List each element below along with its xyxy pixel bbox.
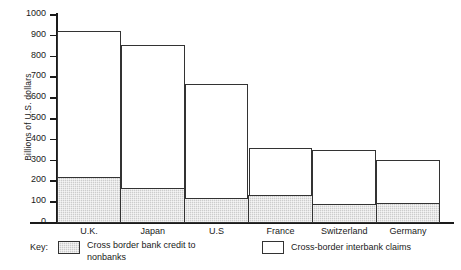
y-axis-tick-mark [50,97,57,99]
y-axis-tick-mark [50,160,57,162]
bar-chart: Billions of U.S. dollars 010020030040050… [0,0,461,270]
legend-label-open: Cross-border interbank claims [291,242,411,252]
y-axis-tick-label: 600 [31,91,46,101]
y-axis-tick-label: 800 [31,50,46,60]
x-axis-label-japan: Japan [121,226,185,236]
bar-segment-nonbank-credit [312,204,377,222]
y-axis-tick-label: 500 [31,112,46,122]
y-axis-tick-mark [50,14,57,16]
bar-uk [57,31,121,222]
y-axis-tick-mark [50,56,57,58]
y-axis-tick-label: 300 [31,154,46,164]
y-axis-tick-label: 1000 [26,8,46,18]
legend-label-shaded: Cross border bank credit to nonbanks [87,240,237,263]
y-axis-tick-label: 100 [31,195,46,205]
y-axis-tick-label: 0 [41,216,46,226]
bar-segment-nonbank-credit [248,195,313,222]
x-axis-label-uk: U.K. [57,226,121,236]
bar-japan [121,45,185,222]
bar-germany [376,160,440,222]
y-axis-tick-label: 200 [31,174,46,184]
y-axis-tick-label: 900 [31,29,46,39]
y-axis-tick-mark [50,118,57,120]
y-axis-tick-label: 400 [31,133,46,143]
plot-area [57,14,440,222]
y-axis-tick-mark [50,35,57,37]
bar-segment-nonbank-credit [57,177,122,223]
legend-key-label: Key: [30,242,48,252]
bar-segment-nonbank-credit [184,198,249,223]
bar-segment-nonbank-credit [120,188,185,222]
bar-switzerland [312,150,376,222]
bar-france [249,148,313,222]
x-axis-label-switzerland: Switzerland [312,226,376,236]
y-axis-tick-mark [50,76,57,78]
bar-us [185,84,249,222]
legend-swatch-open [262,241,284,254]
y-axis-tick-label: 700 [31,70,46,80]
x-axis-label-france: France [249,226,313,236]
x-axis-label-us: U.S [185,226,249,236]
legend-swatch-shaded [58,241,80,254]
y-axis-tick-mark [50,139,57,141]
chart-legend: Key: Cross border bank credit to nonbank… [0,240,461,270]
bar-segment-nonbank-credit [376,203,441,223]
x-axis-label-germany: Germany [376,226,440,236]
